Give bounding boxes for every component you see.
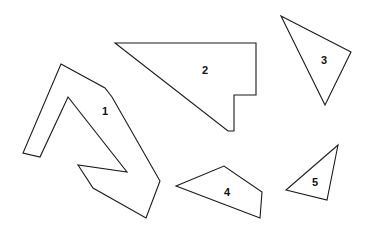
figure-canvas: 1 2 3 4 5 <box>0 0 371 232</box>
shape-label-2: 2 <box>202 64 208 76</box>
polygon-5[interactable] <box>286 145 338 200</box>
shape-label-3: 3 <box>321 54 327 66</box>
shape-group-2[interactable]: 2 <box>115 43 256 131</box>
polygon-3[interactable] <box>281 16 351 105</box>
shape-group-5[interactable]: 5 <box>286 145 338 200</box>
polygon-4[interactable] <box>176 166 262 218</box>
polygon-1[interactable] <box>23 64 160 218</box>
shape-group-4[interactable]: 4 <box>176 166 262 218</box>
shape-group-3[interactable]: 3 <box>281 16 351 105</box>
shape-label-4: 4 <box>224 186 231 198</box>
polygon-2[interactable] <box>115 43 256 131</box>
shapes-svg: 1 2 3 4 5 <box>0 0 371 232</box>
shape-label-5: 5 <box>312 176 318 188</box>
shape-label-1: 1 <box>102 105 108 117</box>
shape-group-1[interactable]: 1 <box>23 64 160 218</box>
